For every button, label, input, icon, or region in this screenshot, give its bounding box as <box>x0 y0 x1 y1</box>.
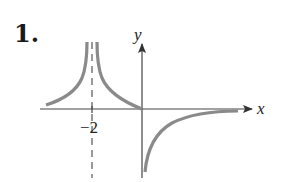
x-axis-label: x <box>256 99 265 118</box>
curve-middle-branch <box>97 42 142 109</box>
x-tick-label-minus-2: −2 <box>80 118 98 137</box>
y-axis-label: y <box>132 25 142 44</box>
curve-right-branch <box>145 111 238 172</box>
curve-left-branch <box>46 42 87 105</box>
function-graph: y x −2 <box>0 0 282 182</box>
